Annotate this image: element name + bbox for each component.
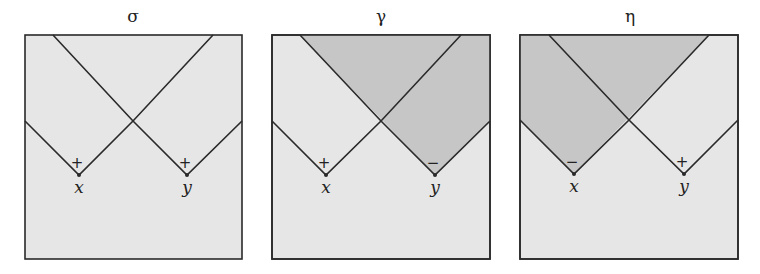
panel-title: η	[625, 6, 635, 26]
panel-eta: η − + x y	[520, 6, 738, 259]
sign-x: +	[71, 154, 84, 172]
panel-gamma: γ + − x y	[272, 6, 490, 259]
panel-frame	[25, 35, 242, 259]
label-y: y	[181, 177, 192, 197]
label-x: x	[321, 177, 331, 197]
label-y: y	[429, 177, 440, 197]
sign-x: +	[318, 154, 331, 172]
sign-y: +	[676, 153, 689, 171]
label-x: x	[74, 177, 84, 197]
panel-title: γ	[376, 6, 386, 26]
panel-title: σ	[127, 6, 139, 26]
sign-x: −	[566, 153, 579, 171]
label-y: y	[678, 176, 689, 196]
panel-sigma: σ + + x y	[25, 6, 242, 259]
sign-y: +	[179, 154, 192, 172]
label-x: x	[569, 176, 579, 196]
sign-y: −	[427, 154, 440, 172]
light-cone-diagram: σ + + x y γ + − x y η − + x y	[0, 0, 760, 274]
